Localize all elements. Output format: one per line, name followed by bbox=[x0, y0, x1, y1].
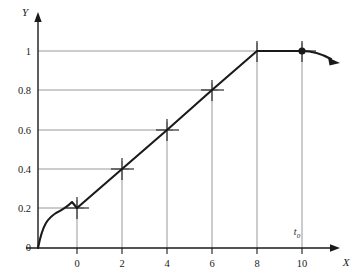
xtick-label-2: 2 bbox=[119, 258, 124, 269]
chart-container: 0 2 4 6 8 10 0 0.2 0.4 0.6 0.8 1 Y X t0 bbox=[0, 0, 359, 274]
xtick-label-10: 10 bbox=[297, 258, 308, 269]
x-axis-label: X bbox=[342, 256, 351, 268]
y-axis-label: Y bbox=[22, 6, 30, 18]
ytick-label-0.6: 0.6 bbox=[18, 125, 31, 136]
ytick-label-0.2: 0.2 bbox=[18, 203, 31, 214]
t0-annotation-subscript: 0 bbox=[297, 232, 301, 240]
x-axis-arrowhead bbox=[330, 244, 340, 251]
x-axis-ticks bbox=[77, 248, 302, 254]
ytick-label-0.4: 0.4 bbox=[18, 164, 32, 175]
xtick-label-4: 4 bbox=[164, 258, 170, 269]
xtick-label-0: 0 bbox=[74, 258, 79, 269]
y-axis-arrowhead bbox=[34, 12, 41, 22]
data-curve bbox=[38, 51, 331, 248]
line-chart: 0 2 4 6 8 10 0 0.2 0.4 0.6 0.8 1 Y X t0 bbox=[0, 0, 359, 274]
xtick-label-8: 8 bbox=[254, 258, 259, 269]
ytick-label-1: 1 bbox=[26, 46, 31, 57]
xtick-label-6: 6 bbox=[209, 258, 214, 269]
ytick-label-0.8: 0.8 bbox=[18, 85, 31, 96]
t0-annotation: t0 bbox=[294, 226, 301, 240]
endpoint-dot bbox=[298, 47, 305, 54]
ytick-label-0: 0 bbox=[26, 242, 31, 253]
grid-vertical bbox=[77, 43, 302, 248]
axes bbox=[26, 18, 332, 248]
curve-end-arrowhead bbox=[328, 58, 340, 66]
